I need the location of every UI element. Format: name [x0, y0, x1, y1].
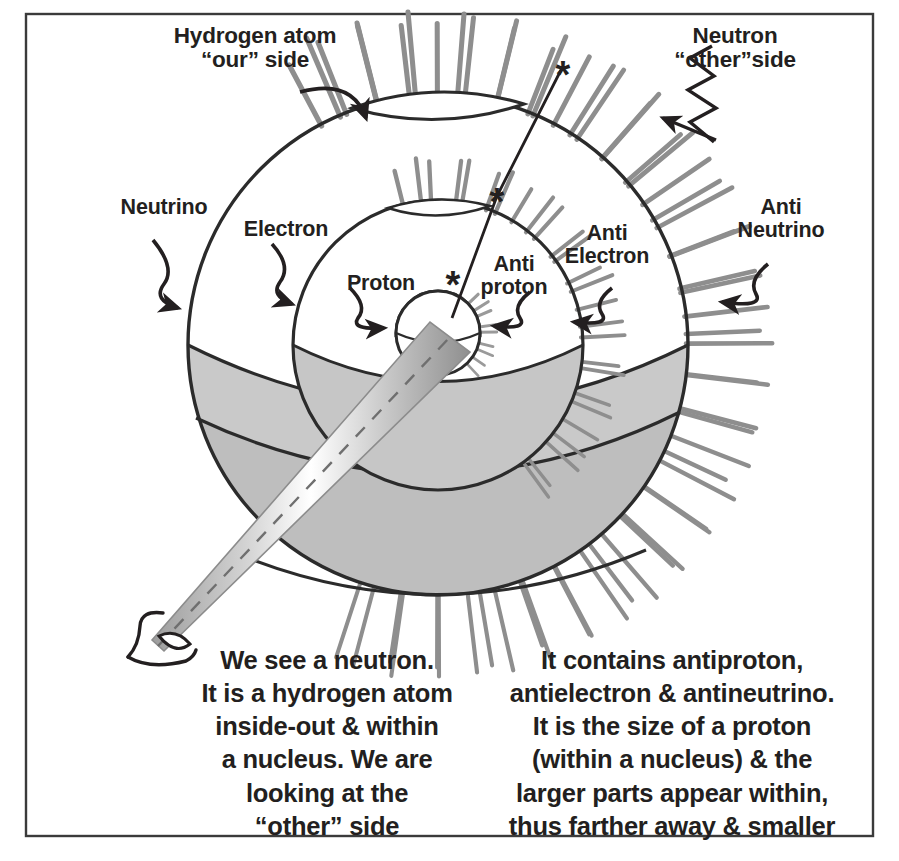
caption-left: We see a neutron. It is a hydrogen atom … — [196, 644, 458, 843]
label-anti-electron: Anti Electron — [552, 222, 662, 268]
label-neutron-other-side: Neutron “other”side — [640, 24, 830, 73]
label-hydrogen-atom-our-side: Hydrogen atom “our” side — [140, 24, 370, 73]
label-proton: Proton — [330, 272, 432, 295]
quill-spike — [581, 335, 625, 337]
figure-canvas: * * * Hyd — [0, 0, 899, 861]
quill-spike — [429, 161, 431, 202]
label-electron: Electron — [226, 218, 346, 241]
label-neutrino: Neutrino — [104, 196, 224, 219]
label-anti-proton: Anti proton — [466, 253, 562, 299]
asterisk-marker-inner: * — [446, 264, 461, 306]
asterisk-marker-middle: * — [490, 181, 505, 223]
caption-right: It contains antiproton, antielectron & a… — [474, 644, 870, 843]
label-anti-neutrino: Anti Neutrino — [716, 196, 846, 242]
asterisk-marker-outer: * — [556, 54, 571, 96]
